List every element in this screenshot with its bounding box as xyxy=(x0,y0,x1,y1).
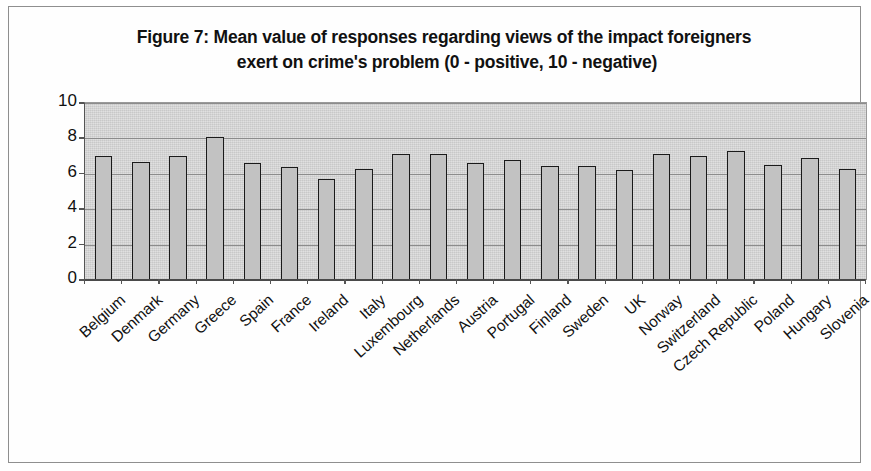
y-axis-tick-mark xyxy=(79,173,84,175)
x-axis-tick-label: UK xyxy=(621,291,649,319)
bar xyxy=(578,166,595,280)
x-axis-tick-mark xyxy=(567,279,568,284)
x-axis-tick-mark xyxy=(158,279,159,284)
bar xyxy=(801,158,818,280)
x-axis-tick-mark xyxy=(419,279,420,284)
x-axis-tick-mark xyxy=(270,279,271,284)
bar xyxy=(541,166,558,280)
bar xyxy=(244,163,261,280)
x-axis-tick-mark xyxy=(828,279,829,284)
y-axis-tick-label: 4 xyxy=(39,197,77,217)
chart-title-line-2: exert on crime's problem (0 - positive, … xyxy=(49,50,839,75)
x-axis-tick-mark xyxy=(716,279,717,284)
x-axis-tick-mark xyxy=(121,279,122,284)
bar xyxy=(430,154,447,280)
chart-title: Figure 7: Mean value of responses regard… xyxy=(49,25,839,76)
x-axis-tick-mark xyxy=(344,279,345,284)
bar xyxy=(653,154,670,280)
x-axis-tick-mark xyxy=(233,279,234,284)
x-axis-tick-mark xyxy=(753,279,754,284)
bar xyxy=(764,165,781,280)
x-axis-tick-mark xyxy=(307,279,308,284)
x-axis-tick-mark xyxy=(791,279,792,284)
x-axis-tick-mark xyxy=(493,279,494,284)
x-axis-tick-mark xyxy=(382,279,383,284)
x-axis-tick-mark xyxy=(865,279,866,284)
x-axis-tick-mark xyxy=(530,279,531,284)
x-axis-tick-mark xyxy=(605,279,606,284)
bar xyxy=(690,156,707,280)
bar xyxy=(727,151,744,280)
y-axis-tick-mark xyxy=(79,137,84,139)
bar xyxy=(95,156,112,280)
y-axis-tick-label: 8 xyxy=(39,126,77,146)
y-axis-tick-mark xyxy=(79,244,84,246)
bar xyxy=(504,160,521,280)
bar xyxy=(206,137,223,280)
x-axis-tick-label: France xyxy=(267,291,314,336)
chart-title-line-1: Figure 7: Mean value of responses regard… xyxy=(49,25,839,50)
x-axis-tick-mark xyxy=(679,279,680,284)
x-axis-tick-label: Ireland xyxy=(305,291,352,336)
x-axis-tick-mark xyxy=(642,279,643,284)
y-axis-tick-mark xyxy=(79,208,84,210)
bar xyxy=(467,163,484,280)
y-axis-tick-label: 10 xyxy=(39,91,77,111)
y-axis-tick-label: 2 xyxy=(39,233,77,253)
bar xyxy=(839,169,856,280)
x-axis-line xyxy=(84,279,866,281)
y-axis-tick-mark xyxy=(79,102,84,104)
bar xyxy=(169,156,186,280)
gridline xyxy=(85,138,866,139)
bar xyxy=(318,179,335,280)
y-axis-tick-label: 6 xyxy=(39,162,77,182)
x-axis-tick-mark xyxy=(84,279,85,284)
gridline xyxy=(85,103,866,104)
x-axis-tick-mark xyxy=(456,279,457,284)
bar xyxy=(281,167,298,280)
bar xyxy=(355,169,372,281)
x-axis-tick-mark xyxy=(196,279,197,284)
bar xyxy=(392,154,409,280)
y-axis-tick-label: 0 xyxy=(39,268,77,288)
chart-frame: Figure 7: Mean value of responses regard… xyxy=(8,6,861,463)
bar xyxy=(616,170,633,280)
y-axis: 1086420 xyxy=(31,102,77,279)
plot-area xyxy=(84,102,867,280)
y-axis-tick-mark xyxy=(79,279,84,281)
bar xyxy=(132,162,149,280)
